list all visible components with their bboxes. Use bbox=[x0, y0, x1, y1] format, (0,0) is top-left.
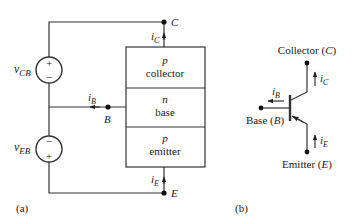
emitter-region-label: emitter bbox=[149, 145, 180, 157]
emitter-lead bbox=[292, 116, 307, 152]
vcb-plus-sign: + bbox=[46, 57, 52, 69]
emitter-region-type: p bbox=[161, 132, 168, 144]
collector-label: Collector (C) bbox=[278, 44, 337, 57]
emitter-terminal-dot bbox=[305, 150, 310, 155]
terminal-e-label: E bbox=[170, 187, 178, 199]
ic-label: iC bbox=[151, 30, 160, 45]
ib-label-b: iB bbox=[272, 85, 280, 100]
ic-label-b: iC bbox=[320, 72, 329, 87]
collector-terminal-dot bbox=[305, 61, 310, 66]
ie-label-b: iE bbox=[320, 134, 328, 149]
emitter-label: Emitter (E) bbox=[282, 158, 332, 171]
figure-b-circuit-symbol bbox=[261, 63, 315, 152]
base-terminal-dot bbox=[259, 106, 264, 111]
terminal-b-label: B bbox=[104, 113, 111, 125]
base-label: Base (B) bbox=[246, 114, 285, 127]
figure-a-caption: (a) bbox=[16, 202, 29, 215]
emitter-arrow-icon bbox=[293, 117, 303, 123]
figure-b-caption: (b) bbox=[235, 202, 248, 215]
vcb-minus-sign: − bbox=[46, 71, 52, 83]
pnp-transistor-diagram: + − − + vCB vEB C B E iC iB iE p collect… bbox=[0, 0, 356, 220]
terminal-e-dot bbox=[161, 190, 166, 195]
collector-wire bbox=[49, 22, 164, 57]
terminal-c-label: C bbox=[171, 16, 179, 28]
figure-a-physical-structure bbox=[36, 22, 205, 193]
vcb-label: vCB bbox=[14, 62, 31, 78]
base-region-type: n bbox=[162, 93, 168, 105]
terminal-b-dot bbox=[105, 104, 110, 109]
collector-lead bbox=[291, 63, 307, 100]
veb-plus-sign: + bbox=[46, 150, 52, 162]
base-region-label: base bbox=[155, 106, 175, 118]
collector-region-type: p bbox=[161, 54, 168, 66]
terminal-c-dot bbox=[161, 19, 166, 24]
collector-region-label: collector bbox=[146, 67, 185, 79]
ib-label: iB bbox=[88, 91, 96, 106]
veb-label: vEB bbox=[14, 140, 31, 156]
veb-minus-sign: − bbox=[46, 135, 52, 147]
ie-label: iE bbox=[151, 173, 159, 188]
